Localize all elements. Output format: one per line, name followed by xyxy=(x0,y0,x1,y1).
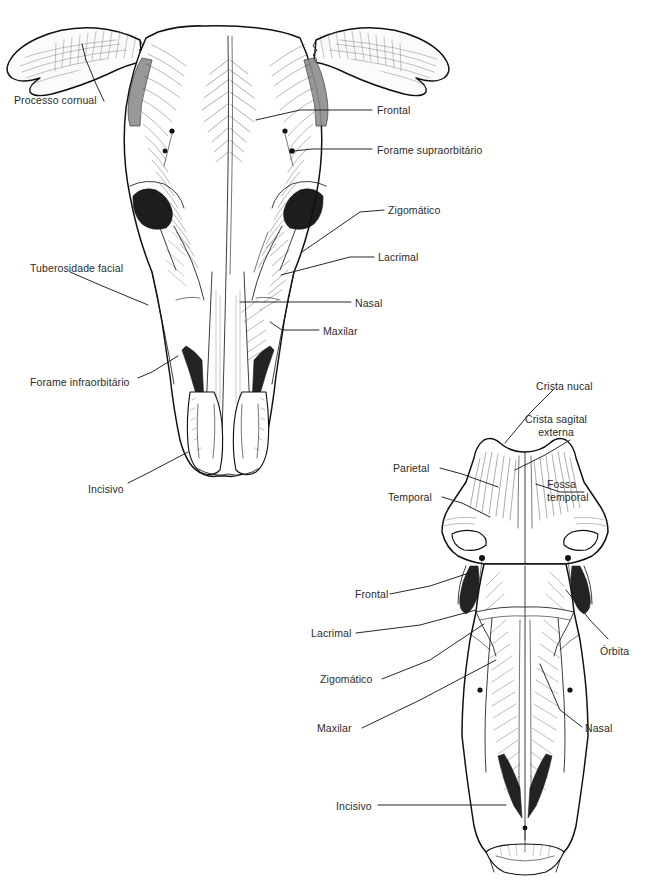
incisive-bone-right xyxy=(233,392,268,475)
label-processo-cornual: Processo cornual xyxy=(14,94,97,107)
leader-tuberosidade-facial xyxy=(70,272,148,305)
label-line: Crista sagital xyxy=(525,413,587,425)
forame-supraorbitario-left xyxy=(169,128,174,133)
label-fossa-temporal: Fossatemporal xyxy=(547,478,627,503)
label-zigomatico: Zigomático xyxy=(388,204,440,217)
label-frontal: Frontal xyxy=(377,104,410,117)
skull-dorsal-illustration xyxy=(442,439,608,875)
anatomy-plate: Processo cornualFrontalForame supraorbit… xyxy=(0,0,647,896)
label-forame-infraorbitario: Forame infraorbitário xyxy=(30,376,130,389)
label-forame-supraorbitario: Forame supraorbitário xyxy=(377,144,482,157)
horn-right xyxy=(313,28,449,96)
label-incisivo: Incisivo xyxy=(88,483,124,496)
label-maxilar: Maxilar xyxy=(323,325,358,338)
label-line: externa xyxy=(538,426,574,438)
leader-incisivo xyxy=(128,452,188,483)
label-maxilar-2: Maxilar xyxy=(317,722,352,735)
label-nasal-2: Nasal xyxy=(585,722,612,735)
incisive-bone-left xyxy=(187,392,222,475)
label-line: temporal xyxy=(547,491,589,503)
label-tuberosidade-facial: Tuberosidade facial xyxy=(30,262,123,275)
label-parietal: Parietal xyxy=(393,462,429,475)
skull-illustrations xyxy=(0,0,647,896)
label-temporal: Temporal xyxy=(388,491,432,504)
label-line: Fossa xyxy=(547,478,576,490)
leader-lacrimal-2 xyxy=(356,610,476,633)
horn-left xyxy=(7,28,143,96)
label-nasal: Nasal xyxy=(355,297,382,310)
forame-supraorbitario-right xyxy=(282,128,287,133)
label-frontal-2: Frontal xyxy=(355,588,388,601)
label-crista-nucal: Crista nucal xyxy=(536,380,593,393)
label-zigomatico-2: Zigomático xyxy=(320,673,372,686)
label-incisivo-2: Incisivo xyxy=(336,800,372,813)
label-orbita: Órbita xyxy=(600,645,629,658)
label-lacrimal-2: Lacrimal xyxy=(311,627,351,640)
label-lacrimal: Lacrimal xyxy=(378,251,418,264)
label-crista-sagital-externa: Crista sagitalexterna xyxy=(516,413,596,438)
